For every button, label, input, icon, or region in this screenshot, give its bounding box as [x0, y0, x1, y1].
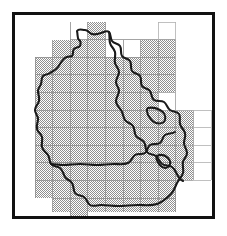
figure-root [0, 0, 227, 236]
map-svg [15, 15, 212, 216]
grid-cell [35, 92, 158, 110]
grid-cell [88, 22, 106, 40]
grid-cell [70, 198, 88, 216]
grid-cell [35, 128, 193, 146]
grid-cell [35, 110, 193, 128]
grid-cell [53, 40, 106, 58]
map-frame [12, 12, 215, 219]
map-canvas [15, 15, 212, 216]
